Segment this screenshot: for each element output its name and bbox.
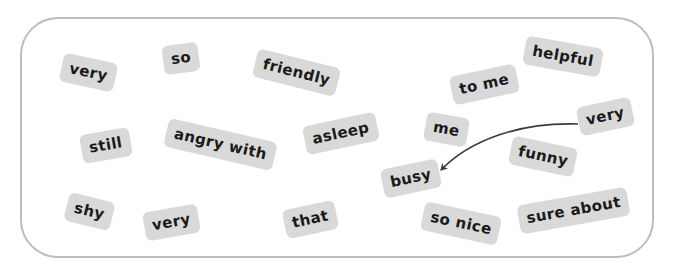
word-chip-so[interactable]: so: [161, 41, 201, 75]
